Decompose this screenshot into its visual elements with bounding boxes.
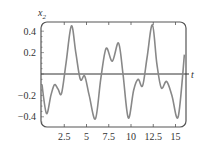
x-tick-label: 12.5 [145, 131, 163, 142]
y-tick-label: −0.4 [18, 111, 36, 122]
line-chart: 0.40.2−0.2−0.4 2.557.51012.515 x2 t [0, 0, 203, 153]
y-axis-label: x2 [37, 7, 46, 21]
x-tick-label: 15 [171, 131, 181, 142]
x-tick-label: 5 [84, 131, 89, 142]
y-tick-labels: 0.40.2−0.2−0.4 [18, 26, 36, 123]
x-tick-label: 10 [126, 131, 136, 142]
y-tick-label: 0.2 [24, 47, 37, 58]
x-axis-label: t [191, 69, 194, 80]
data-series-x2 [42, 25, 184, 119]
x-tick-label: 2.5 [58, 131, 71, 142]
x-tick-labels: 2.557.51012.515 [58, 131, 181, 142]
x-tick-label: 7.5 [103, 131, 116, 142]
y-tick-label: −0.2 [18, 90, 36, 101]
y-tick-label: 0.4 [24, 26, 37, 37]
